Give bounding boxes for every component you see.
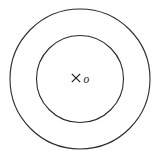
figure-background (0, 0, 160, 159)
figure-canvas: o (0, 0, 160, 159)
concentric-circles-svg: o (0, 0, 160, 159)
center-point-label: o (84, 73, 90, 85)
